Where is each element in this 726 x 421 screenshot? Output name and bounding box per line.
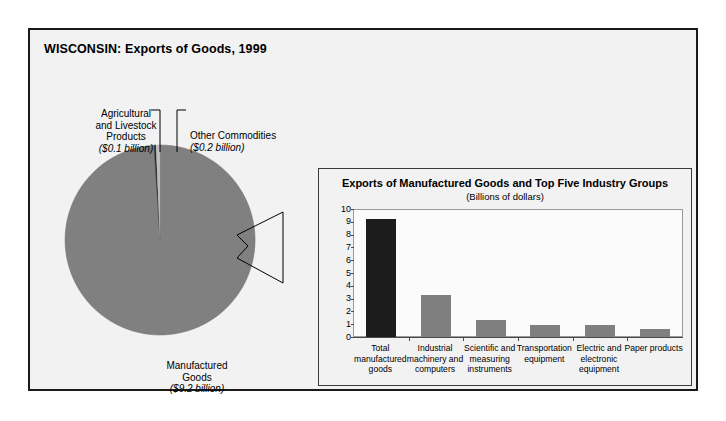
bar-chart-panel: Exports of Manufactured Goods and Top Fi… bbox=[318, 168, 692, 386]
y-axis-tick-label: 10 bbox=[337, 205, 351, 214]
callout-connector bbox=[237, 212, 283, 283]
figure-frame: WISCONSIN: Exports of Goods, 1999 Agricu… bbox=[28, 28, 698, 391]
x-axis-label-line: measuring bbox=[458, 354, 521, 365]
x-axis-tick-mark bbox=[573, 337, 574, 341]
bars-layer bbox=[354, 209, 682, 337]
x-axis-tick-mark bbox=[463, 337, 464, 341]
x-axis-label-line: Industrial bbox=[404, 343, 467, 354]
x-axis-label-line: instruments bbox=[458, 364, 521, 375]
leader-line-agricultural bbox=[151, 110, 160, 152]
x-axis-tick-mark bbox=[627, 337, 628, 341]
x-axis-label-line: machinery and bbox=[404, 354, 467, 365]
y-axis-tick-label: 5 bbox=[337, 269, 351, 278]
bar-chart-subtitle: (Billions of dollars) bbox=[319, 191, 691, 202]
x-axis-labels: TotalmanufacturedgoodsIndustrialmachiner… bbox=[353, 343, 683, 387]
bar-chart-title: Exports of Manufactured Goods and Top Fi… bbox=[319, 177, 691, 189]
y-axis-tick-label: 7 bbox=[337, 243, 351, 252]
x-axis-tick-mark bbox=[518, 337, 519, 341]
x-axis-label-line: Electric and bbox=[568, 343, 631, 354]
x-axis-label: Transportationequipment bbox=[513, 343, 576, 364]
y-axis-tick-label: 0 bbox=[337, 333, 351, 342]
y-axis-tick-label: 1 bbox=[337, 320, 351, 329]
y-axis-tick-mark bbox=[351, 337, 354, 338]
x-axis-label-line: computers bbox=[404, 364, 467, 375]
x-axis-tick-mark bbox=[409, 337, 410, 341]
figure-root: WISCONSIN: Exports of Goods, 1999 Agricu… bbox=[0, 0, 726, 421]
y-axis-tick-label: 2 bbox=[337, 307, 351, 316]
x-axis-label-line: Total bbox=[349, 343, 412, 354]
bar bbox=[530, 325, 560, 337]
leader-line-other bbox=[177, 110, 186, 152]
x-axis-label: Paper products bbox=[622, 343, 685, 354]
x-axis-label: Totalmanufacturedgoods bbox=[349, 343, 412, 375]
bar bbox=[476, 320, 506, 337]
x-axis-label-line: Scientific and bbox=[458, 343, 521, 354]
bar bbox=[421, 295, 451, 337]
x-axis-label: Electric andelectronicequipment bbox=[568, 343, 631, 375]
x-axis-label-line: equipment bbox=[513, 354, 576, 365]
y-axis-tick-label: 6 bbox=[337, 256, 351, 265]
bar bbox=[585, 325, 615, 337]
y-axis-tick-label: 8 bbox=[337, 230, 351, 239]
x-axis-label-line: equipment bbox=[568, 364, 631, 375]
x-axis-label-line: manufactured bbox=[349, 354, 412, 365]
y-axis-tick-label: 4 bbox=[337, 281, 351, 290]
x-axis-label-line: Transportation bbox=[513, 343, 576, 354]
x-axis-label: Scientific andmeasuringinstruments bbox=[458, 343, 521, 375]
bar bbox=[366, 219, 396, 337]
x-axis-label-line: goods bbox=[349, 364, 412, 375]
x-axis-label-line: electronic bbox=[568, 354, 631, 365]
x-axis-label-line: Paper products bbox=[622, 343, 685, 354]
bar bbox=[640, 329, 670, 337]
y-axis-tick-label: 9 bbox=[337, 217, 351, 226]
y-axis-ticks: 012345678910 bbox=[333, 209, 351, 337]
y-axis-tick-label: 3 bbox=[337, 294, 351, 303]
x-axis-label: Industrialmachinery andcomputers bbox=[404, 343, 467, 375]
